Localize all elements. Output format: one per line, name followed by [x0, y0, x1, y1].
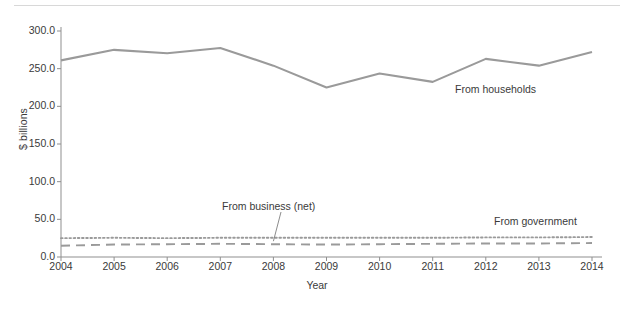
- x-axis-title: Year: [0, 279, 634, 291]
- y-axis-tick-label: 50.0: [11, 213, 55, 224]
- x-axis-tick-label: 2011: [410, 260, 456, 272]
- series-line-from-households: [61, 48, 592, 88]
- x-axis-tick-label: 2010: [357, 260, 403, 272]
- series-line-from-government: [61, 237, 592, 238]
- series-label-government: From government: [494, 215, 577, 227]
- series-label-business: From business (net): [222, 200, 315, 212]
- y-axis-tick-label: 150.0: [11, 138, 55, 149]
- series-label-households: From households: [455, 83, 536, 95]
- x-axis-tick-label: 2013: [516, 260, 562, 272]
- x-axis-tick-label: 2012: [463, 260, 509, 272]
- leader-line-business: [273, 212, 281, 241]
- x-axis-tick-label: 2007: [197, 260, 243, 272]
- y-axis-tick-label: 100.0: [11, 176, 55, 187]
- annotation-leader-lines: [273, 212, 281, 241]
- x-axis-tick-label: 2014: [569, 260, 615, 272]
- x-axis-tick-label: 2006: [144, 260, 190, 272]
- y-axis-title: $ billions: [17, 84, 29, 174]
- y-axis-tick-label: 300.0: [11, 25, 55, 36]
- chart-figure: $ billions Year 0.050.0100.0150.0200.025…: [0, 0, 634, 309]
- x-axis-tick-label: 2008: [250, 260, 296, 272]
- x-axis-tick-label: 2004: [38, 260, 84, 272]
- y-axis-tick-label: 200.0: [11, 100, 55, 111]
- y-axis-tick-label: 250.0: [11, 63, 55, 74]
- series-line-from-business-net: [61, 243, 592, 246]
- x-axis-tick-label: 2009: [304, 260, 350, 272]
- x-axis-tick-label: 2005: [91, 260, 137, 272]
